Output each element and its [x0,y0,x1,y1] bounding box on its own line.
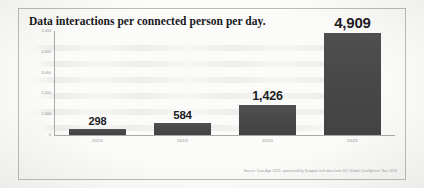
chart-title: Data interactions per connected person p… [29,15,266,28]
x-axis-category-label: 2025 [310,138,395,144]
y-axis-tick-label: 5,000 [42,29,52,33]
bar-rect[interactable] [324,33,382,135]
scanned-page: Data interactions per connected person p… [0,0,424,188]
x-axis-categories: 2010 2015 2020 2025 [55,138,395,144]
chart-figure-frame: Data interactions per connected person p… [18,8,406,180]
source-note: Source: Data Age 2025, sponsored by Seag… [244,169,397,174]
y-axis: 5,000 4,000 3,000 2,000 1,000 0 [29,31,53,135]
bar-rect[interactable] [154,123,212,135]
y-axis-tick-label: 0 [49,133,51,137]
y-axis-tick-label: 4,000 [42,50,52,54]
x-axis-category-label: 2010 [55,138,140,144]
bar-group-2010: 298 [55,31,140,135]
x-axis-category-label: 2015 [140,138,225,144]
y-axis-tick-label: 1,000 [42,112,52,116]
plot-area: 5,000 4,000 3,000 2,000 1,000 0 298 584 [29,31,399,153]
bar-value-label: 298 [89,115,107,127]
y-axis-tick-label: 3,000 [42,71,52,75]
y-axis-line [54,31,55,135]
bar-series: 298 584 1,426 4,909 [55,31,395,135]
bar-group-2025: 4,909 [310,31,395,135]
x-axis-baseline [54,135,395,136]
bar-value-label: 584 [173,109,192,121]
bar-value-label: 4,909 [334,14,371,31]
x-axis-category-label: 2020 [225,138,310,144]
bar-group-2015: 584 [140,31,225,135]
bar-group-2020: 1,426 [225,31,310,135]
bar-rect[interactable] [239,105,297,135]
bar-value-label: 1,426 [252,89,282,103]
y-axis-tick-label: 2,000 [42,91,52,95]
